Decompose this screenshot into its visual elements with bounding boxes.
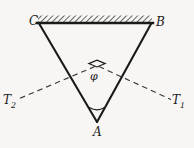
tension-label-t2-base: T: [3, 93, 11, 107]
tension-label-t2: T2: [3, 94, 16, 109]
ceiling-hatching: [38, 16, 152, 23]
triangle-side-ba: [97, 23, 152, 122]
tension-label-t1: T1: [172, 94, 185, 109]
figure-container: C B A T2 T1 φ: [0, 0, 194, 148]
right-angle-marker: [89, 60, 105, 67]
angle-arc-a: [90, 108, 105, 110]
vertex-label-c: C: [29, 15, 38, 27]
tension-label-t1-base: T: [172, 93, 180, 107]
dashed-line-t2: [17, 67, 95, 100]
dashed-line-t1: [99, 67, 171, 100]
tension-label-t2-subscript: 2: [11, 101, 16, 110]
vertex-label-b: B: [156, 16, 165, 28]
triangle-side-ca: [39, 23, 98, 123]
angle-label-phi: φ: [90, 71, 98, 82]
tension-label-t1-subscript: 1: [180, 101, 185, 110]
vertex-label-a: A: [93, 126, 102, 138]
